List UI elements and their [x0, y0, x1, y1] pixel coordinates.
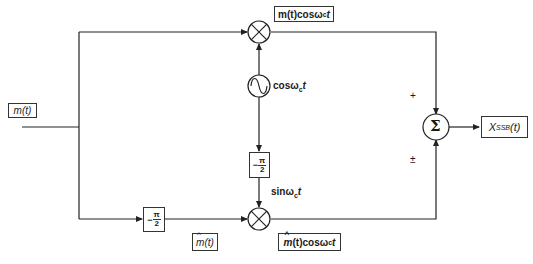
hilbert-den: 2: [154, 220, 158, 228]
summer-bottom-sign: ±: [410, 155, 416, 165]
hilbert-output-label-box: m(t): [192, 233, 218, 251]
shifter-den: 2: [260, 166, 264, 174]
top-mult-to-sum-line: [271, 32, 436, 114]
osc-suffix: t: [303, 80, 306, 91]
bottom-m-hat: m: [284, 237, 293, 248]
hilbert-m-hat: m: [196, 237, 204, 248]
sin-omega: ω: [285, 186, 293, 197]
osc-omega: ω: [290, 80, 298, 91]
input-label-box: m(t): [8, 103, 37, 118]
bottom-rest: (t)cos: [292, 237, 319, 248]
hilbert-phase-shifter-box: − π 2: [143, 207, 165, 232]
top-product-prefix: m(t)cos: [278, 9, 314, 20]
top-multiplier-icon: [248, 21, 270, 43]
output-sub: SSB: [496, 124, 510, 131]
bottom-product-label-box: m(t)cosωct: [278, 233, 341, 251]
sin-suffix: t: [298, 186, 301, 197]
summer-symbol: Σ: [430, 119, 441, 134]
summer-top-sign: +: [410, 91, 416, 101]
oscillator-sine-icon: [248, 75, 270, 97]
top-product-suffix: t: [327, 9, 330, 20]
output-rest: (t): [510, 121, 520, 133]
bottom-omega: ω: [320, 237, 328, 248]
sin-carrier-label: sinωct: [271, 187, 301, 199]
hilbert-fraction: π 2: [153, 211, 161, 228]
input-label: m(t): [14, 105, 32, 116]
bottom-mult-to-sum-line: [271, 140, 436, 219]
carrier-phase-shifter-box: − π 2: [249, 152, 270, 178]
output-label-box: XSSB(t): [481, 116, 528, 138]
bottom-suffix: t: [332, 237, 335, 248]
output-x: X: [489, 121, 496, 133]
sin-prefix: sin: [271, 186, 285, 197]
top-product-label-box: m(t)cosωct: [274, 6, 334, 22]
shifter-fraction: π 2: [258, 157, 266, 174]
diagram-wiring: [0, 0, 533, 264]
hilbert-rest: (t): [204, 237, 213, 248]
top-product-omega: ω: [314, 9, 322, 20]
osc-prefix: cos: [273, 80, 290, 91]
bottom-multiplier-icon: [248, 208, 270, 230]
oscillator-label: cosωct: [273, 81, 306, 93]
